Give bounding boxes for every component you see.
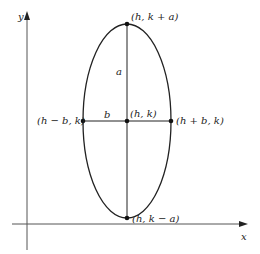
y-axis-label: y: [17, 11, 24, 22]
center-point: [125, 119, 130, 124]
vertex-top-point: [125, 22, 130, 27]
vertex-bottom-point: [125, 216, 130, 221]
y-axis-arrow-icon: [24, 11, 30, 20]
label-semi-minor-b: b: [104, 109, 110, 120]
x-axis: x: [12, 221, 248, 242]
label-right-co-vertex: (h + b, k): [176, 115, 224, 126]
x-axis-label: x: [241, 231, 247, 242]
label-left-co-vertex: (h − b, k): [37, 115, 85, 126]
x-axis-arrow-icon: [239, 221, 248, 227]
co-vertex-right-point: [169, 119, 174, 124]
ellipse-diagram: y x (h, k + a) (h, k − a) (h, k) (h − b,…: [0, 0, 260, 254]
label-center: (h, k): [130, 108, 157, 119]
label-bottom-vertex: (h, k − a): [132, 213, 179, 224]
y-axis: y: [17, 11, 30, 250]
label-semi-major-a: a: [116, 66, 122, 77]
label-top-vertex: (h, k + a): [131, 11, 178, 22]
